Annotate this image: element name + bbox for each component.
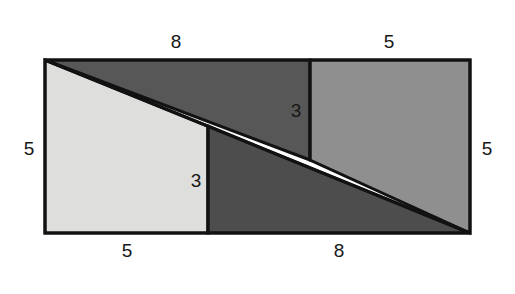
dissection-figure: 8 5 5 8 5 5 3 3 (0, 0, 515, 294)
label-top-right: 5 (384, 31, 395, 52)
label-inner-upper: 3 (291, 100, 302, 121)
label-top-left: 8 (171, 31, 182, 52)
label-bottom-left: 5 (122, 240, 133, 261)
dissection-svg: 8 5 5 8 5 5 3 3 (0, 0, 515, 294)
label-bottom-right: 8 (334, 240, 345, 261)
label-left-side: 5 (24, 138, 35, 159)
label-inner-lower: 3 (191, 170, 202, 191)
label-right-side: 5 (482, 138, 493, 159)
